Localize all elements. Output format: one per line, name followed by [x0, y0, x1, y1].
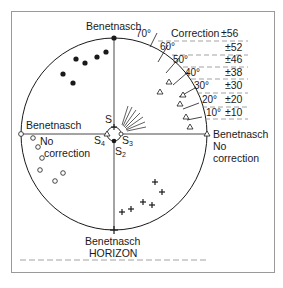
- top-point-dot: [111, 35, 116, 40]
- angle-20: 20°: [202, 94, 217, 105]
- corr-70: ±56: [221, 27, 239, 39]
- corr-50: ±46: [225, 53, 243, 65]
- corr-20: ±20: [225, 93, 243, 105]
- label-left-benetnasch: Benetnasch: [26, 119, 82, 131]
- corr-30: ±30: [225, 79, 243, 91]
- right-note-line2: correction: [213, 152, 259, 164]
- angle-60: 60°: [160, 41, 175, 52]
- label-right-benetnasch: Benetnasch: [213, 128, 269, 140]
- right-point-triangle: [204, 131, 210, 136]
- label-s2: S2: [115, 145, 126, 158]
- center-rays: [122, 106, 146, 131]
- triangles: [157, 79, 193, 129]
- label-top-benetnasch: Benetnasch: [86, 20, 142, 32]
- left-point-circle: [19, 132, 24, 137]
- benetnasch-diagram: Benetnasch Benetnasch Benetnasch Benetna…: [0, 0, 283, 288]
- label-s4: S4: [94, 134, 105, 147]
- corr-60: ±52: [225, 41, 243, 53]
- crosses: [119, 179, 165, 215]
- left-note-line1: No: [40, 135, 54, 147]
- corr-40: ±38: [225, 66, 243, 78]
- label-s3: S3: [122, 134, 133, 147]
- corr-10: ±10: [225, 106, 243, 118]
- angle-40: 40°: [185, 67, 200, 78]
- right-note-line1: No: [213, 140, 227, 152]
- left-note-line2: correction: [44, 147, 90, 159]
- horizon-label: HORIZON: [89, 247, 137, 259]
- filled-dots: [60, 49, 108, 85]
- correction-header: Correction: [171, 27, 220, 39]
- angle-10: 10°: [206, 107, 221, 118]
- label-bottom-benetnasch: Benetnasch: [85, 235, 141, 247]
- angle-70: 70°: [136, 28, 151, 39]
- angle-30: 30°: [194, 80, 209, 91]
- bottom-point-cross: [110, 226, 118, 234]
- angle-50: 50°: [173, 54, 188, 65]
- label-s1: S: [105, 113, 112, 125]
